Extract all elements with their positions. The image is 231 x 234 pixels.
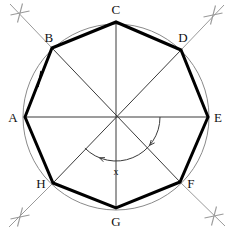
vertex-label-b: B [45, 31, 54, 44]
vertex-label-c: C [112, 3, 121, 16]
vertex-label-d: D [178, 31, 188, 44]
cross-top-left [11, 4, 30, 23]
vertex-label-a: A [8, 111, 18, 124]
angle-arc-group [85, 117, 160, 162]
vertex-label-f: F [187, 177, 194, 190]
vertex-label-e: E [214, 111, 222, 124]
vertex-label-g: G [111, 215, 121, 228]
cross-bottom-left [11, 208, 30, 227]
ray-bottom-left [9, 183, 53, 227]
vertex-label-h: H [36, 177, 46, 190]
figure-canvas [0, 0, 231, 234]
geometry-figure: ABCDEFGH x [0, 0, 231, 234]
cross-top-right [204, 6, 223, 25]
angle-x-label: x [114, 167, 119, 177]
central-angle-arc [85, 117, 160, 161]
